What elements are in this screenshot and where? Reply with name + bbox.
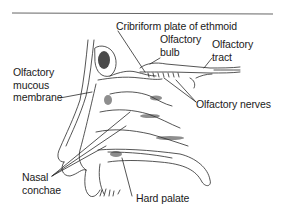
label-olfactory-nerves: Olfactory nerves [196, 98, 271, 111]
label-cribriform-plate: Cribriform plate of ethmoid [116, 20, 237, 33]
leader-tract [204, 58, 212, 68]
label-olfactory-mucous-membrane: Olfactory mucous membrane [13, 66, 62, 104]
label-olfactory-tract: Olfactory tract [212, 38, 253, 63]
leader-mucous [60, 92, 92, 98]
label-nasal-conchae: Nasal conchae [22, 171, 61, 196]
superior-concha [110, 92, 172, 106]
olfactory-bulb [140, 63, 240, 68]
leader-conchae-1 [52, 112, 130, 176]
leader-nerves-1 [164, 78, 196, 102]
frontal-bone-outline [58, 40, 88, 162]
label-olfactory-bulb: Olfactory bulb [160, 33, 201, 58]
leader-nerves-2 [176, 80, 196, 102]
top-rule [12, 13, 273, 14]
frontal-sinus-shading [98, 51, 110, 69]
middle-concha [100, 110, 180, 128]
leader-palate [122, 158, 132, 196]
leader-conchae-2 [52, 126, 126, 176]
cribriform-teeth [148, 73, 179, 77]
olfactory-anatomy-figure: Cribriform plate of ethmoid Olfactory bu… [0, 0, 286, 222]
upper-lip [85, 170, 100, 197]
label-hard-palate: Hard palate [136, 192, 189, 205]
leader-cribriform [118, 31, 145, 72]
